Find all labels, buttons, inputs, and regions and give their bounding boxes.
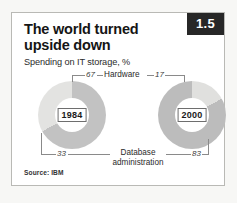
leader-hardware-right-dash bbox=[147, 75, 154, 76]
leader-1984-database-arm bbox=[41, 154, 56, 155]
screenshot-root: 1.5 The world turned upside down Spendin… bbox=[0, 0, 237, 203]
leader-2000-hardware-arm bbox=[165, 75, 185, 76]
leader-1984-hardware-arm bbox=[72, 75, 85, 76]
label-database-line2: administration bbox=[113, 158, 164, 167]
chart-card: 1.5 The world turned upside down Spendin… bbox=[11, 12, 225, 186]
donut-1984-year-label: 1984 bbox=[58, 108, 87, 122]
donut-chart-group: 1984 2000 67 Hardware 17 33 bbox=[12, 67, 224, 167]
label-database-line1: Database bbox=[120, 148, 155, 157]
page-title: The world turned upside down bbox=[24, 21, 174, 53]
leader-database-right-run bbox=[166, 154, 191, 155]
donut-2000-year-label: 2000 bbox=[178, 108, 207, 122]
label-database-administration: Database administration bbox=[111, 148, 165, 167]
donut-2000: 2000 bbox=[158, 81, 226, 149]
leader-2000-database-stem bbox=[208, 139, 209, 155]
leader-1984-hardware-stem bbox=[72, 75, 73, 82]
value-database-2000: 83 bbox=[192, 149, 201, 158]
chart-subtitle: Spending on IT storage, % bbox=[24, 57, 130, 67]
source-note: Source: IBM bbox=[24, 169, 64, 176]
value-hardware-1984: 67 bbox=[86, 70, 95, 79]
leader-hardware-left-dash bbox=[97, 75, 103, 76]
label-hardware: Hardware bbox=[104, 70, 140, 80]
leader-2000-hardware-stem bbox=[184, 75, 185, 82]
leader-1984-database-stem bbox=[41, 133, 42, 154]
donut-1984: 1984 bbox=[38, 81, 106, 149]
leader-database-left-run bbox=[68, 154, 110, 155]
chapter-badge: 1.5 bbox=[187, 13, 224, 35]
value-hardware-2000: 17 bbox=[155, 70, 164, 79]
value-database-1984: 33 bbox=[57, 149, 66, 158]
